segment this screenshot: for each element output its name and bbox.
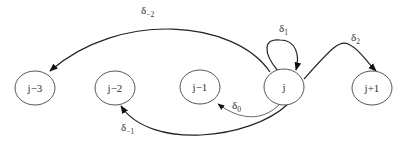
- node-label: j−2: [107, 82, 123, 94]
- label-delta-minus1: δ−1: [121, 121, 134, 136]
- node-label: j−1: [192, 81, 208, 93]
- node-j-minus-2: j−2: [95, 71, 135, 105]
- node-j-minus-1: j−1: [180, 70, 220, 104]
- node-label: j+1: [364, 82, 380, 94]
- node-label: j: [281, 81, 285, 93]
- label-delta-1: δ1: [279, 22, 288, 37]
- edge-delta-minus2: [50, 29, 270, 72]
- edge-delta-minus1: [121, 104, 288, 135]
- node-j: j: [264, 69, 304, 105]
- label-delta-2: δ2: [351, 31, 360, 46]
- edge-delta-0: [218, 104, 280, 117]
- label-delta-0: δ0: [232, 99, 241, 114]
- label-delta-minus2: δ−2: [141, 4, 154, 19]
- node-label: j−3: [27, 82, 43, 94]
- node-j-plus-1: j+1: [352, 71, 392, 105]
- transition-diagram: j−3 j−2 j−1 j j+1 δ−2 δ−1 δ0 δ1 δ2: [0, 0, 405, 151]
- edge-delta-1-selfloop: [267, 40, 297, 71]
- node-j-minus-3: j−3: [15, 71, 55, 105]
